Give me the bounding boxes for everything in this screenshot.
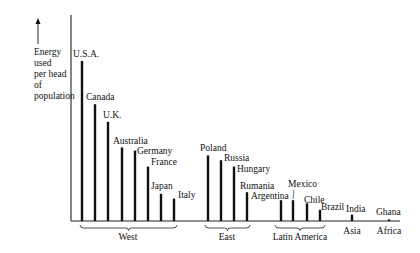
bar bbox=[246, 192, 248, 221]
group-labels: WestEastLatin AmericaAsiaAfrica bbox=[80, 225, 402, 242]
bar-label: Argentina bbox=[251, 191, 290, 201]
bar bbox=[134, 151, 136, 221]
bar-label: U.K. bbox=[103, 110, 121, 120]
bar bbox=[94, 104, 96, 221]
bar-label: Japan bbox=[151, 181, 173, 191]
bar-label: Poland bbox=[200, 143, 227, 153]
bar-label: Hungary bbox=[237, 164, 270, 174]
bar-label: Canada bbox=[86, 92, 115, 102]
bar-label: Brazil bbox=[321, 202, 345, 212]
bar-label: Ghana bbox=[376, 207, 402, 217]
bar bbox=[388, 219, 390, 221]
bar bbox=[107, 122, 109, 221]
group-label: East bbox=[219, 232, 236, 242]
bar bbox=[233, 167, 235, 221]
bar bbox=[147, 167, 149, 221]
bar bbox=[173, 199, 175, 221]
group-brace bbox=[275, 225, 325, 231]
bar-label: Germany bbox=[137, 146, 173, 156]
group-label: Africa bbox=[377, 226, 402, 236]
bar bbox=[121, 147, 123, 221]
group-label: West bbox=[119, 232, 138, 242]
bar bbox=[351, 215, 353, 221]
leader-line bbox=[293, 190, 294, 199]
bar bbox=[306, 203, 308, 221]
bar-label: U.S.A. bbox=[73, 49, 99, 59]
bar bbox=[280, 200, 282, 221]
up-arrow-icon bbox=[36, 18, 41, 44]
bar-chart: U.S.A.CanadaU.K.AustraliaGermanyFranceJa… bbox=[0, 0, 420, 253]
group-brace bbox=[80, 225, 177, 231]
bar bbox=[207, 155, 209, 221]
bar-label: Italy bbox=[178, 190, 196, 200]
group-brace bbox=[205, 225, 250, 231]
bar-label: Mexico bbox=[288, 179, 317, 189]
bar bbox=[160, 194, 162, 221]
group-label: Asia bbox=[343, 226, 361, 236]
bar bbox=[292, 200, 294, 221]
bar-label: India bbox=[346, 204, 366, 214]
group-label: Latin America bbox=[273, 232, 328, 242]
bar-label: Rumania bbox=[240, 181, 275, 191]
bar bbox=[81, 61, 83, 221]
bar bbox=[220, 160, 222, 221]
bar-label: France bbox=[151, 157, 177, 167]
bar-label: Australia bbox=[113, 136, 149, 146]
bar-label: Russia bbox=[224, 153, 250, 163]
